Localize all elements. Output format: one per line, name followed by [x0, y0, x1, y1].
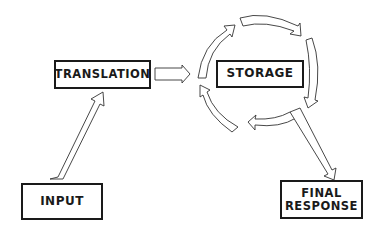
storage-label: STORAGE [226, 67, 293, 80]
cycle-arrow-top [240, 15, 301, 36]
final-response-label-line2: RESPONSE [285, 200, 358, 213]
input-label: INPUT [40, 195, 84, 208]
final-response-node: FINAL RESPONSE [280, 180, 363, 219]
translation-node: TRANSLATION [54, 60, 151, 89]
input-node: INPUT [21, 183, 103, 220]
cycle-arrow-left-lower [200, 85, 238, 132]
arrow-storage-to-final-response [290, 108, 336, 180]
cycle-arrow-right [304, 38, 318, 108]
cycle-arrow-bottom [248, 112, 296, 130]
translation-label: TRANSLATION [55, 68, 151, 81]
arrow-input-to-translation [50, 92, 104, 179]
arrow-translation-to-storage [155, 65, 190, 83]
final-response-label-line1: FINAL [301, 187, 342, 200]
storage-node: STORAGE [216, 60, 304, 88]
